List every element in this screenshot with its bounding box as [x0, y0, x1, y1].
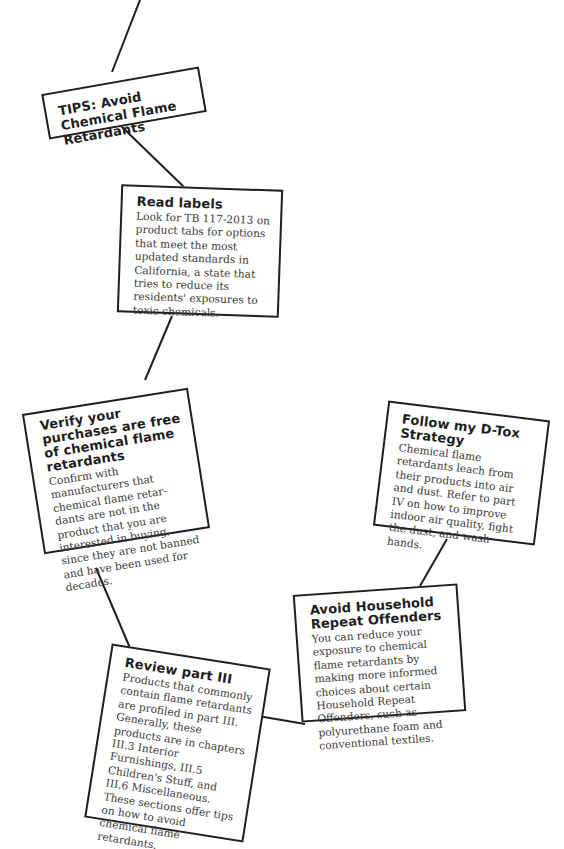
node-body: Chemical flame retardants leach from the… — [386, 441, 533, 564]
node-body: Products that commonly contain flame ret… — [96, 671, 255, 849]
node-dtox: Follow my D-Tox Strategy Chemical flame … — [373, 401, 550, 546]
node-body: You can reduce your exposure to chemical… — [311, 623, 456, 753]
connector-top-to-tips — [112, 0, 140, 72]
node-household: Avoid Household Repeat Offenders You can… — [293, 583, 467, 722]
node-verify: Verify your purchases are free of chemic… — [22, 388, 210, 555]
node-body: Confirm with manufacturers that chemical… — [48, 454, 205, 595]
connector-read-labels-to-verify — [145, 316, 172, 380]
node-body: Look for TB 117-2013 on product tabs for… — [133, 210, 271, 322]
connector-review-to-household — [258, 716, 305, 724]
node-review: Review part III Products that commonly c… — [84, 643, 271, 842]
node-read-labels: Read labels Look for TB 117-2013 on prod… — [117, 184, 283, 318]
